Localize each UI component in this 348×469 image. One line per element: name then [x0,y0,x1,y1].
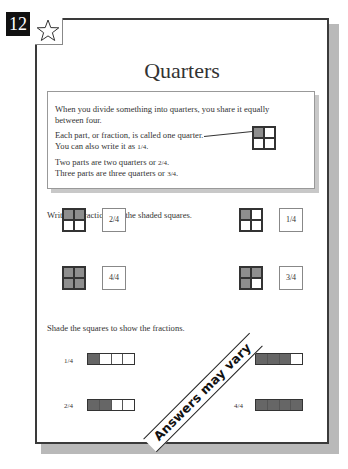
star-box [35,18,63,45]
strip-cell[interactable] [112,354,124,364]
cell [74,220,85,231]
info-line-2: between four. [55,115,102,126]
fraction-strip-4[interactable] [255,399,303,411]
fraction: 3/4 [167,170,176,178]
cell [63,267,74,278]
fraction-strip-2[interactable] [255,353,303,365]
fraction: 1/4 [137,143,146,151]
shaded-square-2 [239,208,263,232]
answer-box-1[interactable]: 2/4 [102,208,126,232]
cell [63,220,74,231]
punct: . [167,157,169,167]
cell [74,209,85,220]
fraction-label-1: 1/4 [64,356,73,367]
star-outline-icon [35,18,61,43]
answer-box-2[interactable]: 1/4 [279,208,303,232]
shaded-square-4 [239,266,263,290]
page-title: Quarters [35,58,329,84]
quarter-cell [253,138,264,149]
fraction-strip-1[interactable] [87,353,135,365]
cell [251,209,262,220]
cell [63,278,74,289]
strip-cell[interactable] [256,354,268,364]
strip-cell[interactable] [291,400,302,410]
info-line-4-text: You can also write it as [55,141,137,151]
strip-cell[interactable] [280,354,292,364]
cell [251,278,262,289]
punct: . [176,168,178,178]
answer-box-3[interactable]: 4/4 [102,266,126,290]
strip-cell[interactable] [268,400,280,410]
cell [74,278,85,289]
strip-cell[interactable] [100,354,112,364]
strip-cell[interactable] [88,400,100,410]
strip-cell[interactable] [112,400,124,410]
quarter-cell [264,127,275,138]
cell [251,220,262,231]
strip-cell[interactable] [88,354,100,364]
cell [74,267,85,278]
shaded-square-3 [62,266,86,290]
cell [240,278,251,289]
info-line-5-text: Two parts are two quarters or [55,157,158,167]
fraction: 2/4 [158,159,167,167]
strip-cell[interactable] [123,400,134,410]
cell [240,220,251,231]
fraction-label-3: 2/4 [64,401,73,412]
cell [251,267,262,278]
info-line-3: Each part, or fraction, is called one qu… [55,130,203,141]
fraction-label-4: 4/4 [234,401,243,412]
strip-cell[interactable] [256,400,268,410]
shaded-square-1 [62,208,86,232]
info-line-6: Three parts are three quarters or 3/4. [55,168,178,180]
quarter-diagram [252,126,276,150]
info-line-6-text: Three parts are three quarters or [55,168,167,178]
strip-cell[interactable] [280,400,292,410]
section2-instruction: Shade the squares to show the fractions. [47,323,185,334]
cell [240,267,251,278]
cell [63,209,74,220]
quarter-cell [264,138,275,149]
info-line-1: When you divide something into quarters,… [55,104,269,115]
quarter-cell-shaded [253,127,264,138]
info-line-4: You can also write it as 1/4. [55,141,148,153]
strip-cell[interactable] [123,354,134,364]
fraction-strip-3[interactable] [87,399,135,411]
strip-cell[interactable] [268,354,280,364]
cell [240,209,251,220]
strip-cell[interactable] [291,354,302,364]
page-number-badge: 12 [6,12,30,36]
punct: . [146,141,148,151]
info-line-5: Two parts are two quarters or 2/4. [55,157,169,169]
answer-box-4[interactable]: 3/4 [279,266,303,290]
strip-cell[interactable] [100,400,112,410]
